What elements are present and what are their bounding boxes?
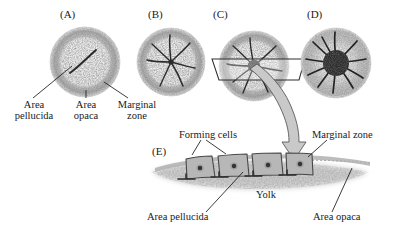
label-area-pellucida-e: Area pellucida [147,211,209,222]
label-area-opaca-e: Area opaca [313,211,361,222]
label-marginal-zone-a-line2: zone [110,110,164,121]
label-marginal-zone-a-line1: Marginal [110,99,164,110]
panel-e-graphic [152,140,372,212]
label-yolk: Yolk [256,189,276,200]
panel-d-graphic [301,28,371,98]
area-opaca-ring-a [50,27,120,97]
label-area-pellucida-a-line1: Area [6,99,62,110]
leader-marginal-zone-e [308,140,327,157]
panel-tag-b: (B) [148,9,163,21]
nucleus-4 [298,162,302,166]
panel-b-graphic [137,28,205,96]
label-forming-cells: Forming cells [179,129,237,140]
label-area-opaca-a-line1: Area [62,99,110,110]
nucleus-1 [198,166,202,170]
leader-marginal-zone-a [104,82,128,98]
dense-center-texture-d [323,50,349,76]
panel-tag-c: (C) [213,9,228,21]
nucleus-2 [232,164,236,168]
label-area-opaca-a: Area opaca [62,99,110,121]
label-marginal-zone-e: Marginal zone [312,129,373,140]
panel-a-graphic [50,27,120,97]
streak-center-b [168,59,173,64]
label-area-opaca-a-line2: opaca [62,110,110,121]
leader-forming-cells-1 [192,140,201,155]
panel-tag-a: (A) [60,9,75,21]
figure-panel-set: (A) (B) (C) (D) (E) Area pellucida Area … [0,0,404,231]
label-area-pellucida-a-line2: pellucida [6,110,62,121]
leader-forming-cells-2 [206,140,226,154]
label-area-pellucida-a: Area pellucida [6,99,62,121]
panel-tag-d: (D) [307,9,322,21]
panel-tag-e: (E) [152,146,166,158]
nucleus-3 [266,163,270,167]
label-marginal-zone-a: Marginal zone [110,99,164,121]
